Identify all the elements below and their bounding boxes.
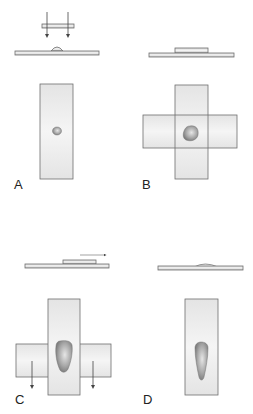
panel-label-b: B <box>142 178 151 191</box>
side-view-c <box>25 255 109 268</box>
slide-side <box>25 264 109 268</box>
coverslip <box>63 260 96 264</box>
top-view-a <box>40 84 73 179</box>
panel-b <box>143 48 237 179</box>
drop <box>183 126 198 141</box>
drop <box>53 127 62 135</box>
slide-side <box>15 51 99 55</box>
panel-d <box>158 264 243 395</box>
diagram-canvas <box>0 0 253 414</box>
panel-a <box>15 12 99 179</box>
panel-label-c: C <box>15 393 24 406</box>
side-view-d <box>158 264 243 270</box>
panel-label-d: D <box>143 393 152 406</box>
side-view-b <box>149 48 234 57</box>
slide-side <box>158 266 243 270</box>
slide-side <box>149 53 234 57</box>
top-view-b <box>143 85 237 179</box>
panel-c <box>16 255 111 395</box>
top-view-d <box>185 299 218 395</box>
panel-label-a: A <box>14 178 23 191</box>
top-view-c <box>16 299 111 395</box>
side-view-a <box>15 12 99 55</box>
coverslip <box>175 48 208 53</box>
drop-side <box>51 47 63 51</box>
